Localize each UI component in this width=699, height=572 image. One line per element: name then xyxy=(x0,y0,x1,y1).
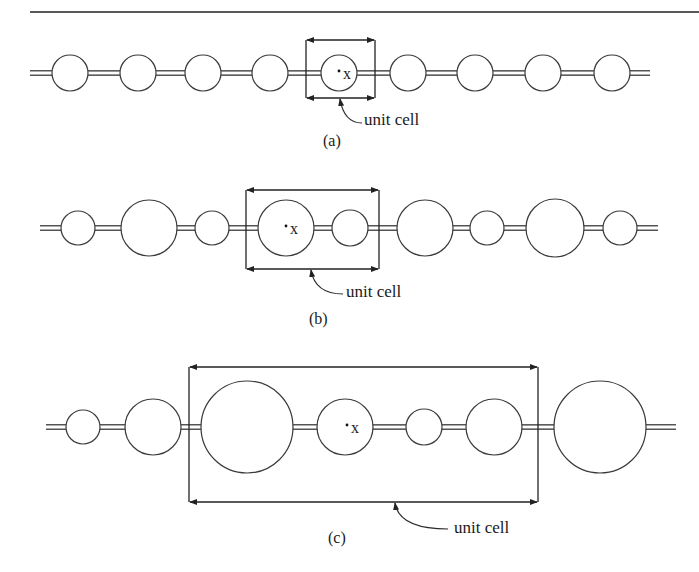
panel-b: xunit cell(b) xyxy=(40,190,658,328)
bead-circle xyxy=(466,399,522,455)
origin-dot xyxy=(338,70,341,73)
bead-circle xyxy=(121,200,177,256)
panel-label-a: (a) xyxy=(323,132,341,150)
bead-circle xyxy=(125,399,181,455)
bead-circle xyxy=(594,55,630,91)
origin-x-label: x xyxy=(351,419,359,436)
bead-circle xyxy=(201,381,293,473)
bead-circle xyxy=(525,55,561,91)
bead-circle xyxy=(258,200,314,256)
bead-circle xyxy=(321,55,357,91)
panel-c: xunit cell(c) xyxy=(46,367,676,547)
panel-a: xunit cell(a) xyxy=(30,40,650,150)
bead-circle xyxy=(526,199,584,257)
unit-cell-pointer-arrow xyxy=(311,270,343,294)
origin-x-label: x xyxy=(290,220,298,237)
unit-cell-pointer-arrow xyxy=(395,503,448,529)
bead-circle xyxy=(61,211,95,245)
bead-circle xyxy=(66,410,100,444)
unit-cell-label: unit cell xyxy=(346,282,402,301)
bead-circle xyxy=(397,200,453,256)
origin-dot xyxy=(285,225,288,228)
unit-cell-label: unit cell xyxy=(454,518,510,537)
bead-circle xyxy=(554,381,646,473)
bead-circle xyxy=(406,409,442,445)
bead-circle xyxy=(470,211,504,245)
origin-x-label: x xyxy=(343,65,351,82)
panel-label-b: (b) xyxy=(309,310,328,328)
bead-circle xyxy=(252,55,288,91)
panel-label-c: (c) xyxy=(328,529,346,547)
bead-circle xyxy=(120,55,156,91)
bead-circle xyxy=(390,55,426,91)
unit-cell-label: unit cell xyxy=(364,110,420,129)
bead-circle xyxy=(603,211,637,245)
unit-cell-pointer-arrow xyxy=(340,99,362,123)
bead-circle xyxy=(195,211,229,245)
bead-circle xyxy=(457,55,493,91)
bead-circle xyxy=(185,55,221,91)
bead-circle xyxy=(52,55,88,91)
unit-cell-figure: xunit cell(a)xunit cell(b)xunit cell(c) xyxy=(0,0,699,572)
bead-circle xyxy=(317,399,373,455)
origin-dot xyxy=(346,424,349,427)
bead-circle xyxy=(332,210,368,246)
